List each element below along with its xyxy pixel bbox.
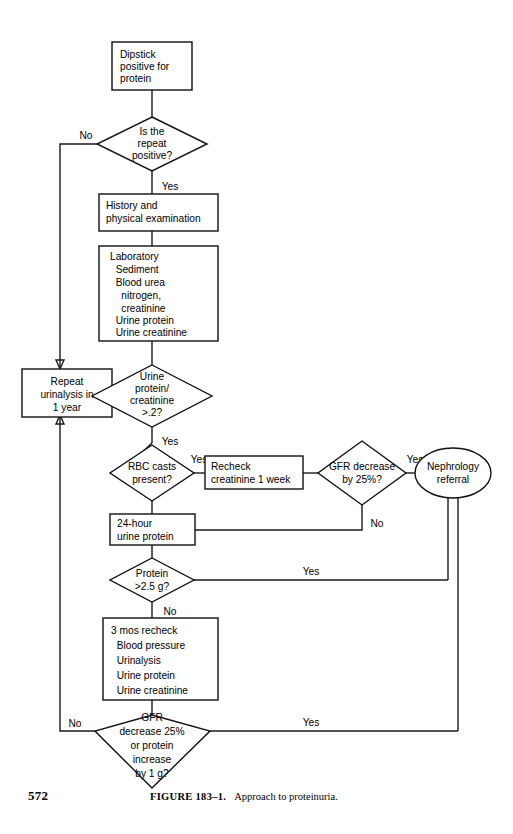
node-history-physical[interactable]: History and physical examination xyxy=(99,194,218,231)
node-line: urinalysis in xyxy=(40,389,93,400)
node-line: Repeat xyxy=(51,376,84,387)
node-line: creatinine 1 week xyxy=(211,474,291,485)
node-line: Urine xyxy=(140,371,165,382)
node-laboratory[interactable]: Laboratory Sediment Blood urea nitrogen,… xyxy=(99,246,218,341)
edge-label-final-yes: Yes xyxy=(303,717,320,728)
node-line: Laboratory xyxy=(110,251,160,262)
node-line: RBC casts xyxy=(128,461,176,472)
node-line: repeat xyxy=(138,138,167,149)
node-line: decrease 25% xyxy=(119,726,184,737)
node-line: Urinalysis xyxy=(111,655,161,666)
node-line: Blood pressure xyxy=(111,640,186,651)
edge-label-protein-no: No xyxy=(163,606,176,617)
node-line: by 25%? xyxy=(342,474,382,485)
node-line: or protein xyxy=(130,740,173,751)
node-line: Recheck xyxy=(211,461,252,472)
edge-label-ratio-yes: Yes xyxy=(162,436,179,447)
node-repeat-positive[interactable]: Is the repeat positive? xyxy=(97,117,207,171)
node-line: positive for xyxy=(120,61,170,72)
node-gfr-decrease-25[interactable]: GFR decrease by 25%? xyxy=(318,441,406,505)
node-line: >.2? xyxy=(142,407,162,418)
node-line: by 1 g? xyxy=(135,768,169,779)
edge-label-final-no: No xyxy=(68,718,81,729)
node-line: GFR decrease xyxy=(329,461,396,472)
node-line: increase xyxy=(133,754,172,765)
node-line: 24-hour xyxy=(117,518,153,529)
node-line: nitrogen, xyxy=(110,290,161,301)
node-24-hour-urine-protein[interactable]: 24-hour urine protein xyxy=(110,514,195,545)
edge-label-protein-yes: Yes xyxy=(303,566,320,577)
node-line: physical examination xyxy=(106,213,201,224)
figure-caption: FIGURE 183–1.Approach to proteinuria. xyxy=(150,791,338,802)
node-nephrology-referral[interactable]: Nephrology referral xyxy=(415,448,491,498)
node-line: positive? xyxy=(132,150,173,161)
node-line: protein/ xyxy=(135,383,169,394)
figure-caption-description: Approach to proteinuria. xyxy=(234,791,338,802)
node-recheck-creatinine[interactable]: Recheck creatinine 1 week xyxy=(205,456,303,489)
flowchart-svg: No Yes No Yes Yes Yes No Yes No No Yes D… xyxy=(0,0,513,834)
node-gfr-decrease-or-protein-increase[interactable]: GFR decrease 25% or protein increase by … xyxy=(95,712,210,788)
figure-caption-bar: 572 FIGURE 183–1.Approach to proteinuria… xyxy=(0,788,513,818)
edge-label-gfr25-no: No xyxy=(370,518,383,529)
connector-final-no xyxy=(60,417,95,731)
node-line: referral xyxy=(437,474,469,485)
node-line: urine protein xyxy=(117,531,174,542)
figure-container: No Yes No Yes Yes Yes No Yes No No Yes D… xyxy=(0,0,513,834)
node-line: Urine creatinine xyxy=(110,327,187,338)
node-dipstick[interactable]: Dipstick positive for protein xyxy=(112,42,192,90)
page-number: 572 xyxy=(28,788,48,804)
node-line: 1 year xyxy=(53,402,82,413)
node-line: >2.5 g? xyxy=(135,581,170,592)
node-line: Urine creatinine xyxy=(111,685,188,696)
edge-label-repeat-positive-no: No xyxy=(79,130,92,141)
node-line: Sediment xyxy=(110,264,159,275)
node-line: Blood urea xyxy=(110,277,165,288)
node-protein-25g[interactable]: Protein >2.5 g? xyxy=(110,558,194,602)
node-rbc-casts[interactable]: RBC casts present? xyxy=(110,445,194,501)
connector-gfr25-no xyxy=(195,505,362,530)
edge-label-repeat-positive-yes: Yes xyxy=(162,181,179,192)
node-line: creatinine xyxy=(130,395,175,406)
node-line: present? xyxy=(132,474,172,485)
figure-caption-label: FIGURE 183–1. xyxy=(150,791,226,802)
node-3-mos-recheck[interactable]: 3 mos recheck Blood pressure Urinalysis … xyxy=(103,618,218,700)
node-line: Dipstick xyxy=(120,49,157,60)
node-line: Protein xyxy=(136,568,168,579)
node-line: protein xyxy=(120,73,151,84)
node-line: Urine protein xyxy=(110,315,174,326)
node-line: creatinine xyxy=(110,303,166,314)
node-line: History and xyxy=(106,200,158,211)
node-line: GFR xyxy=(141,712,163,723)
node-line: Is the xyxy=(140,126,165,137)
node-line: Urine protein xyxy=(111,670,175,681)
node-line: 3 mos recheck xyxy=(111,625,178,636)
node-line: Nephrology xyxy=(427,461,480,472)
